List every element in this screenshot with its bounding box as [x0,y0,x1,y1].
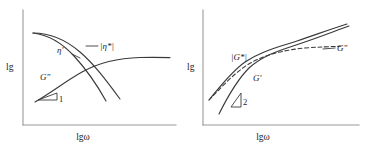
slope-triangle-2 [231,93,241,107]
left-x-axis-label: lgω [76,132,90,142]
leader-g-double-prime [323,48,335,49]
label-g-double-prime: G″ [40,72,50,82]
right-x-axis-label: lgω [256,132,270,142]
chart-panel-right: |G*| G′ G″ 2 lg lgω [183,0,366,148]
curve-g-double-prime [209,46,341,100]
figure-two-rheology-plots: η′ |η*| G″ 1 lg lgω |G*| G′ G″ 2 lg lgω [0,0,366,148]
label-slope-1: 1 [59,94,63,104]
label-g-star: |G*| [231,52,247,62]
right-y-axis-label: lg [187,62,195,72]
label-slope-2: 2 [243,97,247,107]
label-g-prime: G′ [253,73,262,83]
chart-panel-left: η′ |η*| G″ 1 lg lgω [0,0,183,148]
curve-g-star [209,24,347,100]
curve-g-prime [219,26,349,114]
left-y-axis-label: lg [6,62,14,72]
label-g-double-prime: G″ [337,43,347,53]
label-eta-star: |η*| [100,41,114,51]
label-eta-prime: η′ [57,45,64,55]
